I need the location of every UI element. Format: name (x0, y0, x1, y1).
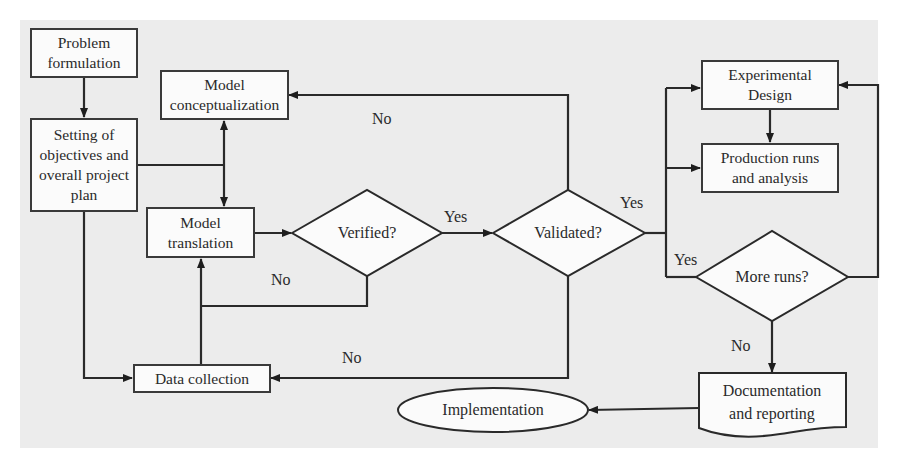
edge-label-validated-no-bottom: No (342, 349, 362, 367)
edge-label-more-runs-yes: Yes (674, 251, 697, 269)
edge-docs-to-implementation (589, 408, 699, 410)
edge-more-runs-loop (839, 85, 878, 277)
edge-label-validated-no-top: No (372, 110, 392, 128)
edge-validated-no-bottom (271, 276, 568, 378)
edge-objectives-to-data (84, 212, 132, 378)
edge-label-validated-yes: Yes (620, 194, 643, 212)
edge-label-verified-yes: Yes (444, 208, 467, 226)
verified-label: Verified? (338, 224, 397, 242)
model-translation-node: Model translation (146, 207, 255, 258)
experimental-design-node: Experimental Design (701, 60, 839, 110)
documentation-label: Documentation and reporting (723, 379, 822, 425)
problem-formulation-node: Problem formulation (30, 28, 138, 78)
more-runs-label: More runs? (735, 268, 808, 286)
validated-label: Validated? (534, 224, 602, 242)
model-conceptualization-node: Model conceptualization (160, 70, 289, 120)
edge-validated-no-top (289, 95, 568, 190)
data-collection-node: Data collection (133, 364, 271, 393)
production-runs-node: Production runs and analysis (701, 143, 839, 193)
implementation-label: Implementation (442, 401, 543, 419)
edge-label-more-runs-no: No (731, 337, 751, 355)
edge-label-verified-no: No (271, 271, 291, 289)
objectives-node: Setting of objectives and overall projec… (30, 118, 138, 212)
